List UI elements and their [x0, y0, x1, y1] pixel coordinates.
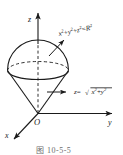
- x-axis-label: x: [4, 131, 9, 140]
- svg-text:x2+y2+z2=R2: x2+y2+z2=R2: [57, 23, 94, 38]
- sphere-equation-label: x2+y2+z2=R2: [57, 23, 94, 38]
- svg-text:x2+y2: x2+y2: [91, 87, 107, 96]
- cone-equation-label: z= √ x2+y2: [73, 87, 112, 96]
- svg-text:z=: z=: [73, 88, 81, 96]
- sphere-eq-rhs-exp: 2: [89, 23, 93, 28]
- z-axis-label: z: [27, 15, 32, 24]
- figure-caption: 图 10-5-5: [0, 146, 123, 155]
- radical-sign-icon: √: [85, 89, 89, 97]
- geometry-diagram: z y x O x2+y2+z2=R2 z= √ x2+y2: [0, 0, 123, 155]
- figure-caption-text: 图 10-5-5: [36, 146, 71, 155]
- y-axis-label: y: [107, 118, 112, 127]
- origin-label: O: [34, 117, 40, 127]
- figure-container: z y x O x2+y2+z2=R2 z= √ x2+y2 图 10-5-5: [0, 0, 123, 155]
- cone-left-generator: [8, 71, 39, 114]
- cone-eq-equals: =: [77, 88, 81, 96]
